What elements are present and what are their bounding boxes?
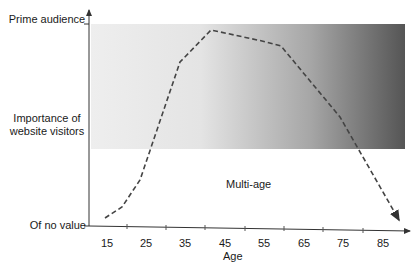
x-tick-marks: [127, 224, 363, 233]
y-label-no-value: Of no value: [4, 219, 86, 232]
x-tick-25: 25: [131, 237, 161, 249]
x-tick-85: 85: [368, 237, 398, 249]
x-tick-45: 45: [210, 237, 240, 249]
x-tick-55: 55: [249, 237, 279, 249]
x-tick-35: 35: [170, 237, 200, 249]
x-axis-title: Age: [223, 250, 253, 262]
multi-age-annotation: Multi-age: [226, 178, 271, 190]
x-axis: [89, 226, 410, 231]
age-importance-chart: Prime audience Importance of website vis…: [0, 0, 416, 271]
prime-audience-band: [91, 24, 405, 149]
y-label-prime-audience: Prime audience: [6, 13, 88, 26]
y-label-line2: website visitors: [6, 125, 88, 138]
x-tick-15: 15: [92, 237, 122, 249]
x-tick-75: 75: [328, 237, 358, 249]
y-label-importance: Importance of website visitors: [6, 112, 88, 138]
y-label-line1: Importance of: [6, 112, 88, 125]
x-tick-65: 65: [289, 237, 319, 249]
